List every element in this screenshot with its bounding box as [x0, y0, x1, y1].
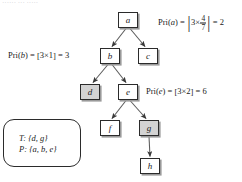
figure-canvas: ······ ··· ····· a b — [0, 0, 242, 182]
formula-pri-b-equals: = — [56, 50, 65, 60]
tree-node-f-label: f — [109, 123, 112, 132]
tree-node-h[interactable]: h — [140, 158, 160, 174]
formula-pri-a: Pri(a) = |3×47| = 2 — [158, 15, 224, 32]
edge-g-h — [149, 137, 150, 157]
formula-pri-b-expression: 3×1 — [40, 50, 53, 60]
tree-node-d[interactable]: d — [80, 84, 100, 100]
formula-pri-a-times: × — [195, 17, 200, 27]
formula-pri-b-prefix: Pri( — [8, 50, 21, 60]
tree-node-f[interactable]: f — [100, 120, 120, 136]
edge-e-g — [130, 101, 146, 119]
tree-node-g-label: g — [147, 123, 152, 132]
formula-pri-e-result: 6 — [202, 86, 206, 96]
set-p-line: P: {a, b, e} — [19, 144, 57, 155]
tree-node-a[interactable]: a — [118, 12, 138, 28]
tree-node-g[interactable]: g — [139, 120, 159, 136]
edge-b-e — [112, 65, 126, 83]
tree-node-c[interactable]: c — [138, 48, 158, 64]
formula-pri-b-result: 3 — [65, 50, 69, 60]
formula-pri-e: Pri(e) = [3×2] = 6 — [146, 86, 207, 97]
tree-node-c-label: c — [146, 51, 150, 60]
formula-pri-a-result: 2 — [220, 17, 224, 27]
tree-node-b-label: b — [108, 51, 113, 60]
formula-pri-a-prefix: Pri( — [158, 17, 171, 27]
formula-pri-e-suffix: ) = — [163, 86, 175, 96]
formula-pri-e-expression: 3×2 — [177, 86, 190, 96]
formula-pri-b-suffix: ) = — [25, 50, 37, 60]
fraction-denominator: 7 — [200, 23, 206, 31]
set-t-line: T: {d, g} — [19, 133, 57, 144]
fraction-4-over-7: 47 — [200, 15, 206, 32]
edge-b-d — [93, 65, 108, 83]
tree-node-e[interactable]: e — [118, 84, 138, 100]
formula-pri-e-prefix: Pri( — [146, 86, 159, 96]
tree-node-b[interactable]: b — [100, 48, 120, 64]
edge-e-f — [112, 101, 126, 119]
tree-node-d-label: d — [88, 87, 93, 96]
sets-box: T: {d, g} P: {a, b, e} — [3, 119, 81, 167]
formula-pri-a-suffix: ) = — [175, 17, 187, 27]
edge-a-b — [112, 29, 126, 47]
formula-pri-a-equals: = — [211, 17, 220, 27]
formula-pri-b: Pri(b) = [3×1] = 3 — [8, 50, 69, 61]
tree-node-h-label: h — [148, 161, 153, 170]
tree-node-e-label: e — [126, 87, 130, 96]
sets-box-content: T: {d, g} P: {a, b, e} — [19, 133, 57, 155]
edge-a-c — [130, 29, 145, 47]
tree-node-a-label: a — [126, 15, 131, 24]
